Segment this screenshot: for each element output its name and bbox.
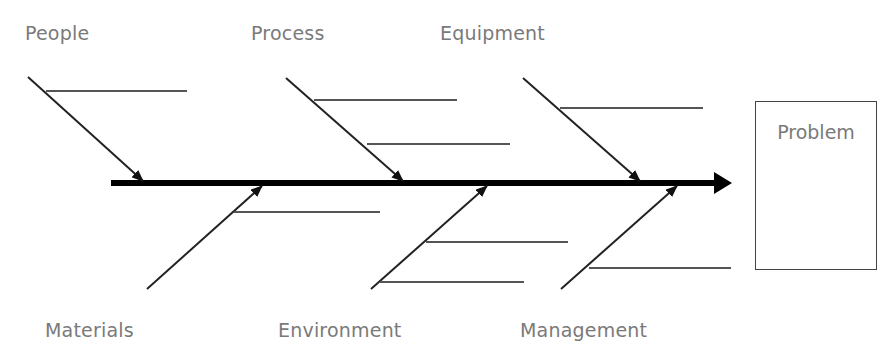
- problem-label: Problem: [756, 121, 876, 143]
- bone-management: [561, 186, 731, 289]
- label-people: People: [25, 22, 89, 44]
- label-process: Process: [251, 22, 324, 44]
- label-management: Management: [520, 319, 647, 341]
- label-materials: Materials: [45, 319, 134, 341]
- bone-process: [286, 78, 510, 181]
- spine-arrow: [111, 172, 732, 194]
- label-equipment: Equipment: [440, 22, 545, 44]
- bone-environment: [371, 186, 568, 289]
- bone-equipment: [523, 78, 703, 181]
- problem-box: Problem: [755, 101, 877, 270]
- label-environment: Environment: [278, 319, 402, 341]
- bone-materials: [147, 186, 380, 289]
- bone-people: [28, 77, 187, 181]
